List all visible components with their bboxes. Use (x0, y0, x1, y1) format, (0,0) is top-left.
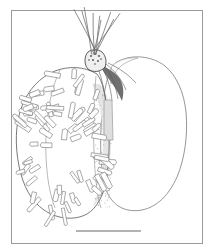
stipple-dot (107, 207, 108, 208)
club-seta (40, 143, 52, 148)
stipple-dot (110, 178, 111, 179)
stipple-dot (101, 200, 102, 201)
club-seta (72, 69, 77, 79)
stipple-dot (106, 193, 107, 194)
stipple-dot (109, 176, 110, 177)
stipple-dot (109, 206, 110, 207)
stipple-dot (107, 200, 108, 201)
club-seta (30, 142, 39, 146)
stipple-dot (105, 195, 106, 196)
stipple-dot (108, 197, 109, 198)
club-seta (61, 129, 67, 140)
stipple-dot (106, 206, 107, 207)
club-seta (57, 185, 62, 195)
figure-root (0, 0, 211, 252)
stipple-dot (104, 203, 105, 204)
stipple-dot (110, 143, 111, 144)
neck-stem (104, 100, 113, 140)
stipple-dot (105, 193, 106, 194)
stipple-dot (109, 194, 110, 195)
stipple-dot (98, 205, 99, 206)
stipple-dot (109, 98, 110, 99)
figure-illustration (0, 0, 211, 252)
club-seta (46, 106, 64, 111)
